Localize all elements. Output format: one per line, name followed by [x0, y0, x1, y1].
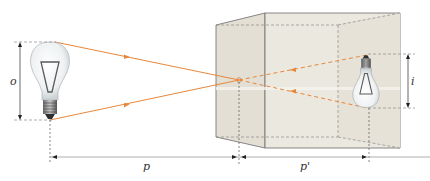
object-bulb-icon: [31, 42, 70, 119]
object-height-label: o: [10, 75, 17, 88]
image-distance-label: p': [300, 160, 310, 173]
distance-dimensions: p p': [50, 155, 430, 173]
image-height-label: i: [411, 75, 415, 88]
pinhole-camera-diagram: o i p p': [0, 0, 430, 181]
object-distance-label: p: [143, 160, 150, 173]
